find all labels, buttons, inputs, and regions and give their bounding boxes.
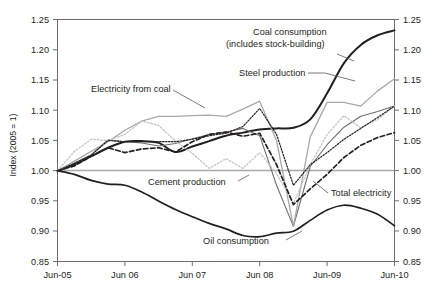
y-tick-label-left: 0.90 bbox=[31, 226, 49, 236]
leader-total-electricity bbox=[313, 181, 328, 193]
y-tick-label-left: 1.00 bbox=[31, 166, 49, 176]
y-tick-label-left: 1.15 bbox=[31, 75, 49, 85]
line-chart: 1.25 1.20 1.15 1.10 1.05 1.00 0.95 0.90 … bbox=[0, 0, 445, 295]
y-tick-label-right: 1.05 bbox=[403, 136, 421, 146]
y-tick-label-left: 1.20 bbox=[31, 45, 49, 55]
y-tick-labels-right: 1.25 1.20 1.15 1.10 1.05 1.00 0.95 0.90 … bbox=[403, 15, 421, 267]
y-tick-label-right: 0.85 bbox=[403, 257, 421, 267]
y-tick-label-left: 1.10 bbox=[31, 106, 49, 116]
y-tick-label-right: 1.20 bbox=[403, 45, 421, 55]
y-tick-label-right: 1.10 bbox=[403, 106, 421, 116]
label-coal-consumption-line2: (includes stock-building) bbox=[226, 39, 325, 49]
x-tick-labels: Jun-05 Jun 06 Jun 07 Jun 08 Jun-09 Jun-1… bbox=[43, 270, 408, 280]
series-line bbox=[58, 79, 395, 227]
y-tick-labels-left: 1.25 1.20 1.15 1.10 1.05 1.00 0.95 0.90 … bbox=[31, 15, 49, 267]
y-tick-label-left: 0.95 bbox=[31, 196, 49, 206]
x-tick-label: Jun-05 bbox=[43, 270, 71, 280]
leader-electricity-from-coal bbox=[173, 90, 205, 108]
series-line bbox=[58, 30, 395, 170]
series-line bbox=[58, 106, 395, 185]
y-tick-label-left: 1.05 bbox=[31, 136, 49, 146]
data-series-group bbox=[58, 30, 395, 236]
label-cement-production: Cement production bbox=[148, 177, 226, 187]
x-tick-label: Jun 08 bbox=[246, 270, 274, 280]
chart-container: 1.25 1.20 1.15 1.10 1.05 1.00 0.95 0.90 … bbox=[0, 0, 445, 295]
x-tick-label: Jun-10 bbox=[380, 270, 408, 280]
leader-steel bbox=[308, 73, 355, 81]
label-steel-production: Steel production bbox=[239, 68, 305, 78]
x-tick-label: Jun-09 bbox=[313, 270, 341, 280]
label-coal-consumption-line1: Coal consumption bbox=[253, 27, 327, 37]
label-total-electricity: Total electricity bbox=[331, 188, 392, 198]
series-line bbox=[58, 106, 395, 226]
series-line bbox=[58, 171, 395, 237]
x-tick-label: Jun 07 bbox=[179, 270, 207, 280]
x-tick-label: Jun 06 bbox=[111, 270, 139, 280]
y-tick-label-right: 1.00 bbox=[403, 166, 421, 176]
y-ticks-left bbox=[53, 20, 58, 262]
y-ticks-right bbox=[395, 20, 400, 262]
y-axis-title: Index (2005 = 1) bbox=[8, 113, 18, 176]
label-oil-consumption: Oil consumption bbox=[203, 236, 269, 246]
leader-cement bbox=[238, 175, 249, 181]
y-tick-label-right: 1.25 bbox=[403, 15, 421, 25]
label-electricity-from-coal: Electricity from coal bbox=[91, 84, 171, 94]
y-tick-label-right: 0.95 bbox=[403, 196, 421, 206]
y-tick-label-right: 1.15 bbox=[403, 75, 421, 85]
y-tick-label-left: 1.25 bbox=[31, 15, 49, 25]
y-tick-label-right: 0.90 bbox=[403, 226, 421, 236]
y-tick-label-left: 0.85 bbox=[31, 257, 49, 267]
x-ticks bbox=[58, 262, 395, 267]
